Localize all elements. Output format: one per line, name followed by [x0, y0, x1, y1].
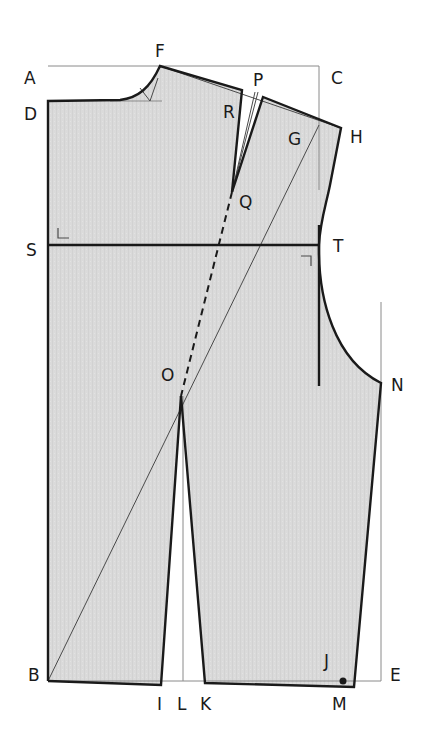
label-t: T: [332, 236, 344, 256]
label-p: P: [253, 70, 263, 90]
label-f: F: [155, 41, 165, 61]
label-g: G: [288, 129, 301, 149]
label-d: D: [24, 104, 37, 124]
label-k: K: [200, 694, 212, 714]
label-h: H: [350, 127, 363, 147]
label-s: S: [26, 240, 37, 260]
label-r: R: [223, 102, 235, 122]
label-j: J: [323, 651, 329, 671]
point-j-dot: [340, 678, 347, 685]
pattern-diagram: A F P C D R G H Q S T O N J B E I L K M: [0, 0, 433, 752]
label-m: M: [332, 694, 347, 714]
label-n: N: [391, 375, 404, 395]
label-e: E: [390, 665, 401, 685]
label-a: A: [24, 68, 36, 88]
label-i: I: [157, 694, 162, 714]
label-l: L: [177, 694, 187, 714]
label-q: Q: [239, 192, 252, 212]
label-o: O: [161, 365, 174, 385]
label-c: C: [331, 68, 343, 88]
label-b: B: [28, 665, 40, 685]
